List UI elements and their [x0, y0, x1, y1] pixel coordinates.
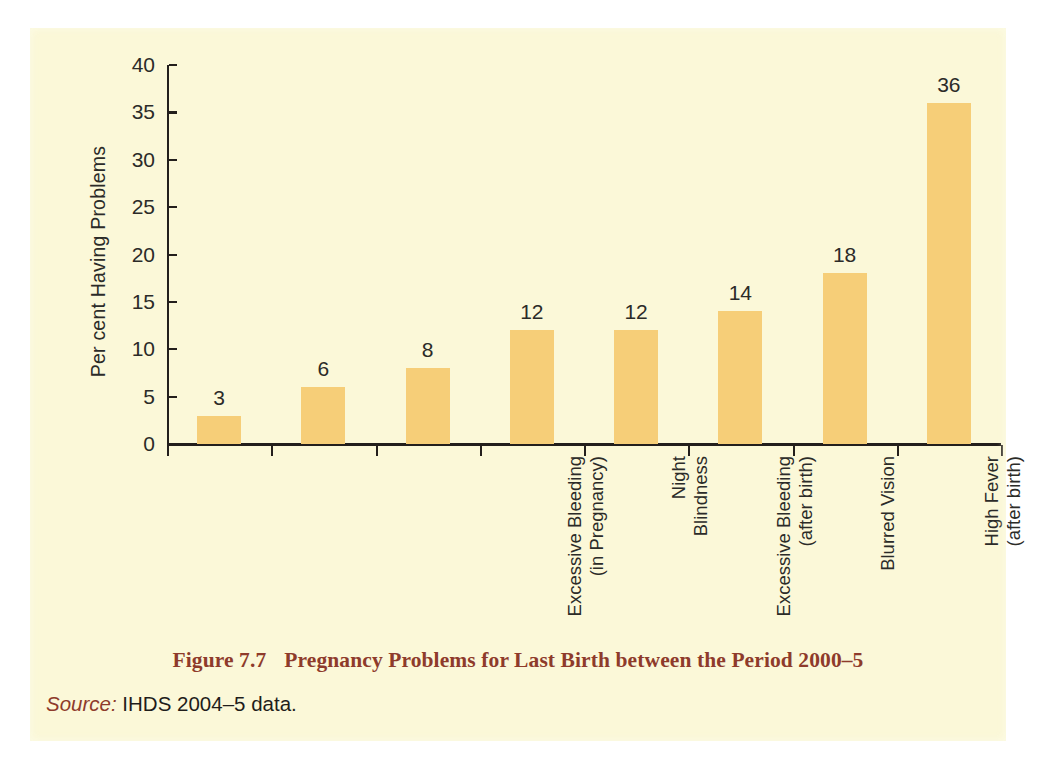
y-axis-tick-mark — [169, 443, 177, 445]
source-label: Source: — [46, 692, 117, 715]
y-axis-tick-label: 10 — [109, 338, 155, 359]
y-axis-tick-label: 35 — [109, 101, 155, 122]
y-axis-tick-label: 25 — [109, 196, 155, 217]
bar-value-label: 3 — [184, 387, 254, 408]
y-axis-tick-mark — [169, 396, 177, 398]
bar — [197, 416, 241, 444]
y-axis-tick-mark — [169, 206, 177, 208]
bar-chart: Per cent Having Problems 403530252015105… — [30, 28, 1006, 741]
y-axis-tick-mark — [169, 348, 177, 350]
x-axis-tick-mark — [376, 445, 378, 456]
x-axis-tick-mark — [271, 445, 273, 456]
x-axis-tick-mark — [1001, 445, 1003, 456]
bar — [614, 330, 658, 444]
bar — [718, 311, 762, 444]
y-axis-tick-mark — [169, 111, 177, 113]
bar-value-label: 18 — [810, 244, 880, 265]
bar-column — [406, 65, 450, 444]
bar-column — [510, 65, 554, 444]
y-axis-tick-mark — [169, 254, 177, 256]
bar-column — [718, 65, 762, 444]
y-axis-tick-label: 5 — [109, 386, 155, 407]
x-axis-tick-mark — [167, 445, 169, 456]
bar-value-label: 8 — [393, 339, 463, 360]
y-axis-tick-label: 20 — [109, 244, 155, 265]
y-axis-tick-label: 30 — [109, 149, 155, 170]
figure-page: Per cent Having Problems 403530252015105… — [30, 28, 1006, 741]
source-note: Source: IHDS 2004–5 data. — [46, 692, 297, 716]
figure-caption: Figure 7.7Pregnancy Problems for Last Bi… — [30, 648, 1006, 673]
y-axis-tick-label: 15 — [109, 291, 155, 312]
bar — [823, 273, 867, 444]
bar — [927, 103, 971, 444]
bar — [301, 387, 345, 444]
x-axis-tick-mark — [793, 445, 795, 456]
figure-caption-text: Pregnancy Problems for Last Birth betwee… — [284, 648, 863, 672]
bar — [510, 330, 554, 444]
y-axis-tick-mark — [169, 159, 177, 161]
bar-value-label: 36 — [914, 74, 984, 95]
source-text: IHDS 2004–5 data. — [122, 692, 296, 715]
y-axis-tick-label: 0 — [109, 433, 155, 454]
bar-value-label: 14 — [705, 282, 775, 303]
bar-value-label: 12 — [497, 301, 567, 322]
x-axis-tick-mark — [480, 445, 482, 456]
y-axis-tick-mark — [169, 64, 177, 66]
figure-number: Figure 7.7 — [173, 648, 267, 672]
bar-column — [927, 65, 971, 444]
bar-column — [301, 65, 345, 444]
x-axis-tick-mark — [584, 445, 586, 456]
bar-value-label: 6 — [288, 358, 358, 379]
y-axis-title: Per cent Having Problems — [87, 112, 110, 412]
bar-column — [614, 65, 658, 444]
x-axis-tick-mark — [897, 445, 899, 456]
x-axis-tick-mark — [688, 445, 690, 456]
bar-value-label: 12 — [601, 301, 671, 322]
bar — [406, 368, 450, 444]
y-axis-tick-label: 40 — [109, 54, 155, 75]
y-axis-tick-mark — [169, 301, 177, 303]
